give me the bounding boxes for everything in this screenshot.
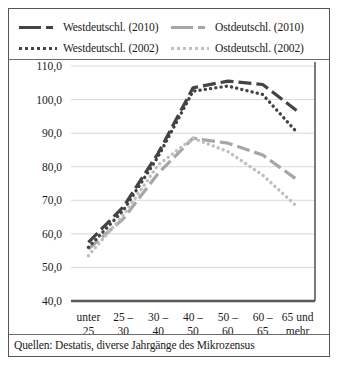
y-axis-tick-label: 80,0 — [42, 161, 62, 174]
legend-label-west-2002: Westdeutschl. (2002) — [63, 42, 158, 54]
y-axis-tick-label: 60,0 — [42, 228, 62, 241]
x-axis-tick-label: 50 – — [218, 311, 238, 323]
x-axis-tick-label: unter — [77, 311, 101, 323]
x-axis-tick-label: 60 – — [253, 311, 273, 323]
dashed-line-key-icon — [19, 22, 59, 32]
chart-figure: Westdeutschl. (2010) Ostdeutschl. (2010)… — [8, 8, 330, 357]
x-axis-tick-label: 65 und — [282, 311, 314, 323]
x-axis-tick-label: 25 – — [113, 311, 133, 323]
legend-row-2: Westdeutschl. (2002) Ostdeutschl. (2002) — [19, 37, 323, 58]
plot-area: 110,0100,090,080,070,060,050,040,0unter2… — [9, 56, 329, 356]
legend-item-west-2002: Westdeutschl. (2002) — [19, 37, 171, 58]
legend-item-west-2010: Westdeutschl. (2010) — [19, 16, 171, 37]
legend-item-ost-2002: Ostdeutschl. (2002) — [171, 37, 323, 58]
legend-item-ost-2010: Ostdeutschl. (2010) — [171, 16, 323, 37]
x-axis-tick-label: 40 – — [183, 311, 203, 323]
dotted-line-key-icon — [171, 43, 211, 53]
y-axis-tick-label: 70,0 — [42, 194, 62, 207]
y-axis-tick-label: 100,0 — [36, 94, 62, 107]
dashed-line-key-icon — [171, 22, 211, 32]
y-axis-tick-label: 50,0 — [42, 261, 62, 274]
dotted-line-key-icon — [19, 43, 59, 53]
data-series-line — [88, 138, 297, 249]
x-axis-tick-label: 30 – — [148, 311, 168, 323]
legend-row-1: Westdeutschl. (2010) Ostdeutschl. (2010) — [19, 16, 323, 37]
line-chart: 110,0100,090,080,070,060,050,040,0unter2… — [9, 56, 328, 336]
legend-label-ost-2010: Ostdeutschl. (2010) — [215, 21, 304, 33]
y-axis-tick-label: 110,0 — [37, 60, 63, 73]
source-note: Quellen: Destatis, diverse Jahrgänge des… — [9, 334, 329, 356]
legend-label-west-2010: Westdeutschl. (2010) — [63, 21, 158, 33]
legend-label-ost-2002: Ostdeutschl. (2002) — [215, 42, 304, 54]
y-axis-tick-label: 90,0 — [42, 127, 62, 140]
chart-legend: Westdeutschl. (2010) Ostdeutschl. (2010)… — [9, 13, 329, 59]
y-axis-tick-label: 40,0 — [42, 295, 62, 308]
